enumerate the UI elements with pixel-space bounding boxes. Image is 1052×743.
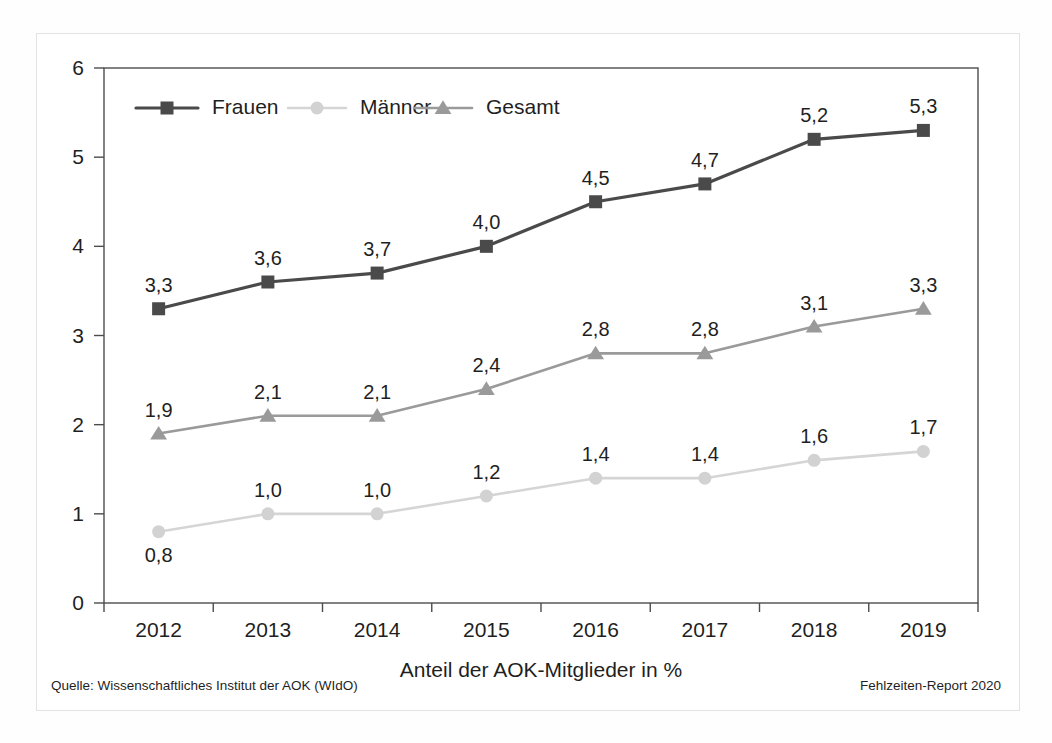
y-axis-tick-label: 6 [72, 56, 84, 79]
x-axis-tick-label: 2015 [463, 618, 510, 641]
data-label-gesamt: 2,8 [691, 318, 719, 340]
y-axis-tick-label: 4 [72, 234, 84, 257]
data-label-gesamt: 3,1 [800, 292, 828, 314]
marker-square [589, 195, 602, 208]
data-label-frauen: 4,0 [472, 211, 500, 233]
marker-circle [311, 102, 324, 115]
line-chart: 0123456 20122013201420152016201720182019… [0, 0, 1052, 743]
data-label-maenner: 1,0 [254, 479, 282, 501]
report-note: Fehlzeiten-Report 2020 [860, 678, 1001, 693]
plot-area-border [104, 68, 978, 603]
series-line-gesamt [159, 309, 924, 434]
data-label-maenner: 1,6 [800, 425, 828, 447]
data-label-gesamt: 2,1 [254, 381, 282, 403]
y-axis-tick-label: 5 [72, 145, 84, 168]
marker-square [480, 240, 493, 253]
data-label-maenner: 0,8 [145, 544, 173, 566]
x-axis-title-text: Anteil der AOK-Mitglieder in % [400, 658, 682, 681]
marker-circle [261, 507, 274, 520]
marker-circle [917, 445, 930, 458]
data-label-gesamt: 2,1 [363, 381, 391, 403]
x-axis-title: Anteil der AOK-Mitglieder in % [400, 658, 682, 681]
y-axis-ticks: 0123456 [72, 56, 104, 614]
legend-label-maenner: Männer [360, 95, 431, 118]
data-label-maenner: 1,4 [582, 443, 610, 465]
marker-circle [371, 507, 384, 520]
marker-square [161, 102, 174, 115]
x-axis-ticks: 20122013201420152016201720182019 [104, 603, 978, 641]
source-note: Quelle: Wissenschaftliches Institut der … [51, 678, 358, 693]
y-axis-tick-label: 2 [72, 413, 84, 436]
data-label-frauen: 5,3 [909, 95, 937, 117]
chart-legend: FrauenMännerGesamt [136, 95, 560, 118]
data-label-maenner: 1,0 [363, 479, 391, 501]
marker-circle [589, 472, 602, 485]
x-axis-tick-label: 2014 [354, 618, 401, 641]
x-axis-tick-label: 2012 [135, 618, 182, 641]
x-axis-tick-label: 2017 [682, 618, 729, 641]
data-label-maenner: 1,4 [691, 443, 719, 465]
marker-circle [480, 490, 493, 503]
data-label-gesamt: 1,9 [145, 399, 173, 421]
y-axis-tick-label: 3 [72, 324, 84, 347]
plot-area [104, 68, 978, 603]
data-label-frauen: 4,5 [582, 167, 610, 189]
x-axis-tick-label: 2013 [245, 618, 292, 641]
marker-square [808, 133, 821, 146]
x-axis-tick-label: 2018 [791, 618, 838, 641]
data-label-frauen: 3,6 [254, 247, 282, 269]
data-label-gesamt: 3,3 [909, 274, 937, 296]
y-axis-tick-label: 1 [72, 502, 84, 525]
marker-circle [698, 472, 711, 485]
data-label-frauen: 3,3 [145, 274, 173, 296]
figure-container: 0123456 20122013201420152016201720182019… [0, 0, 1052, 743]
marker-square [371, 267, 384, 280]
marker-circle [808, 454, 821, 467]
series-layer [150, 124, 932, 538]
legend-label-frauen: Frauen [212, 95, 279, 118]
data-label-maenner: 1,2 [472, 461, 500, 483]
marker-square [698, 177, 711, 190]
marker-circle [152, 525, 165, 538]
x-axis-tick-label: 2016 [572, 618, 619, 641]
data-label-frauen: 4,7 [691, 149, 719, 171]
y-axis-tick-label: 0 [72, 591, 84, 614]
marker-square [261, 276, 274, 289]
x-axis-tick-label: 2019 [900, 618, 947, 641]
legend-label-gesamt: Gesamt [486, 95, 560, 118]
data-label-frauen: 3,7 [363, 238, 391, 260]
marker-triangle [915, 301, 932, 315]
marker-square [152, 302, 165, 315]
data-label-frauen: 5,2 [800, 104, 828, 126]
data-label-maenner: 1,7 [909, 416, 937, 438]
data-label-gesamt: 2,4 [472, 354, 500, 376]
marker-square [917, 124, 930, 137]
data-label-gesamt: 2,8 [582, 318, 610, 340]
